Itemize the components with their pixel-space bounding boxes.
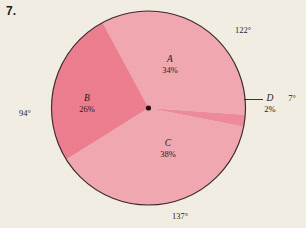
pie-center-dot — [146, 105, 151, 110]
sector-label-b: B — [84, 93, 90, 103]
sector-value-c: 38% — [160, 149, 176, 159]
pie-chart-svg: A 34% B 26% C 38% D 2% 122° 7° 94° 137° — [0, 0, 306, 228]
sector-label-d: D — [266, 93, 274, 103]
sector-label-c: C — [165, 138, 172, 148]
angle-annotation-top-right: 122° — [235, 25, 251, 35]
sector-label-a: A — [166, 54, 173, 64]
angle-annotation-right: 7° — [288, 93, 296, 103]
sector-value-a: 34% — [162, 65, 178, 75]
sector-value-d: 2% — [264, 104, 275, 114]
sector-value-b: 26% — [79, 104, 95, 114]
pie-chart-figure: 7. A 34% B 26% C 38% D — [0, 0, 306, 228]
angle-annotation-bottom: 137° — [172, 211, 188, 221]
angle-annotation-left: 94° — [19, 108, 31, 118]
